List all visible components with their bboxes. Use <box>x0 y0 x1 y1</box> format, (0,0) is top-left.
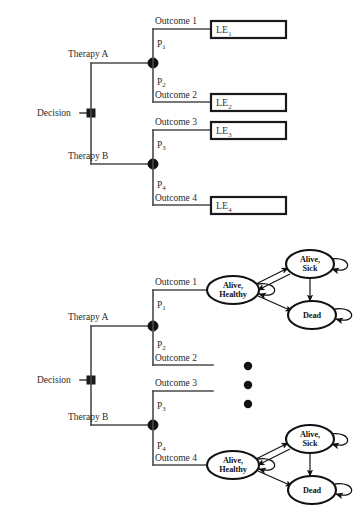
vertical-ellipsis <box>244 362 252 408</box>
state2-alive-sick-line1: Alive, <box>300 430 320 439</box>
bottom-prob-2: P2 <box>157 340 166 351</box>
top-therapy-a-label: Therapy A <box>68 49 109 59</box>
markov-model-outcome-4: Alive, Healthy Alive, Sick Dead <box>207 425 352 504</box>
state2-dead-label: Dead <box>303 486 322 495</box>
bottom-decision-tree: Decision Therapy A Therapy B Outcome 1 P… <box>37 250 352 504</box>
state2-alive-healthy-line2: Healthy <box>219 465 248 474</box>
state2-alive-healthy-line1: Alive, <box>223 456 243 465</box>
transition2-healthy-to-sick <box>256 443 288 459</box>
top-prob-2: P2 <box>157 77 166 88</box>
top-outcome-3-label: Outcome 3 <box>155 117 197 127</box>
bottom-prob-1: P1 <box>157 300 166 311</box>
top-outcome-4-label: Outcome 4 <box>155 193 197 203</box>
transition-healthy-to-sick <box>256 268 288 284</box>
transition2-healthy-to-dead <box>258 471 292 486</box>
ellipsis-dot-3 <box>244 400 252 408</box>
transition-healthy-to-dead <box>258 296 292 311</box>
bottom-root-label: Decision <box>37 375 71 385</box>
top-prob-1: P1 <box>157 39 166 50</box>
top-root-label: Decision <box>37 108 71 118</box>
bottom-therapy-b-label: Therapy B <box>68 412 108 422</box>
top-outcome-1-label: Outcome 1 <box>155 16 197 26</box>
bottom-outcome-4-label: Outcome 4 <box>155 453 197 463</box>
figure-root: Decision Therapy A Therapy B Outcome 1 P… <box>0 0 364 520</box>
top-prob-4: P4 <box>157 180 166 191</box>
state-dead-label: Dead <box>303 311 322 320</box>
top-outcome-2-label: Outcome 2 <box>155 90 197 100</box>
state-alive-sick-line1: Alive, <box>300 255 320 264</box>
ellipsis-dot-1 <box>244 362 252 370</box>
self-loop2-dead <box>335 484 352 496</box>
bottom-prob-3: P3 <box>157 401 166 412</box>
state2-alive-sick-line2: Sick <box>302 439 317 448</box>
bottom-outcome-2-label: Outcome 2 <box>155 353 197 363</box>
bottom-prob-4: P4 <box>157 441 166 452</box>
ellipsis-dot-2 <box>244 381 252 389</box>
top-prob-3: P3 <box>157 140 166 151</box>
bottom-therapy-a-label: Therapy A <box>68 312 109 322</box>
bottom-outcome-3-label: Outcome 3 <box>155 378 197 388</box>
state-alive-healthy-line1: Alive, <box>223 281 243 290</box>
state-alive-sick-line2: Sick <box>302 264 317 273</box>
self-loop-dead <box>335 309 352 321</box>
decision-tree-markov-diagram: Decision Therapy A Therapy B Outcome 1 P… <box>0 0 364 520</box>
top-decision-tree: Decision Therapy A Therapy B Outcome 1 P… <box>37 16 286 214</box>
state-alive-healthy-line2: Healthy <box>219 290 248 299</box>
bottom-outcome-1-label: Outcome 1 <box>155 277 197 287</box>
markov-model-outcome-1: Alive, Healthy Alive, Sick Dead <box>207 250 352 329</box>
top-therapy-b-label: Therapy B <box>68 151 108 161</box>
